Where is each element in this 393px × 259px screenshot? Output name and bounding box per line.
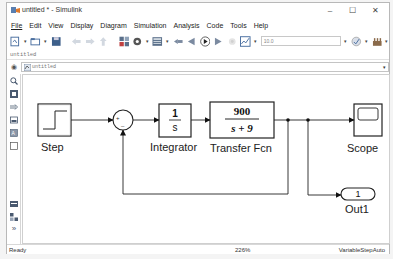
menu-code[interactable]: Code xyxy=(207,20,224,32)
scope-block[interactable] xyxy=(354,104,382,136)
status-text: Ready xyxy=(9,246,26,254)
menu-file[interactable]: File xyxy=(11,20,22,32)
step-block[interactable] xyxy=(38,104,71,136)
out1-label: Out1 xyxy=(345,203,369,215)
integrator-label: Integrator xyxy=(150,141,197,153)
open-icon[interactable] xyxy=(30,36,41,47)
window-title: untitled * - Simulink xyxy=(22,6,82,13)
model-explorer-icon[interactable] xyxy=(152,36,163,47)
path-dropdown-icon[interactable]: ▾ xyxy=(383,64,386,70)
config-dropdown-icon[interactable]: ▾ xyxy=(146,38,150,44)
svg-text:s + 9: s + 9 xyxy=(230,122,253,134)
explorer-bar-icon[interactable] xyxy=(10,200,18,208)
maximize-button[interactable]: ☐ xyxy=(341,5,363,17)
scope-label: Scope xyxy=(347,142,378,154)
svg-text:s: s xyxy=(173,122,178,133)
advisor-dropdown-icon[interactable]: ▾ xyxy=(365,38,369,44)
stop-time-dropdown-icon[interactable]: ▾ xyxy=(344,38,348,44)
status-bar: Ready 226% VariableStepAuto xyxy=(7,244,389,254)
step-label: Step xyxy=(41,141,64,153)
menu-view[interactable]: View xyxy=(48,20,63,32)
zoom-icon[interactable] xyxy=(10,77,18,85)
svg-text:1: 1 xyxy=(172,108,178,119)
menu-display[interactable]: Display xyxy=(70,20,93,32)
step-previous-icon[interactable] xyxy=(186,36,197,47)
simulink-app-icon xyxy=(11,6,20,15)
svg-text:+: + xyxy=(116,115,120,121)
zoom-level: 226% xyxy=(235,246,250,254)
menu-help[interactable]: Help xyxy=(254,20,268,32)
hide-browser-icon[interactable]: ◉ xyxy=(10,63,18,71)
image-icon[interactable] xyxy=(10,116,18,124)
out1-port[interactable]: 1 xyxy=(341,188,375,200)
simulink-window: untitled * - Simulink – ☐ ✕ File Edit Vi… xyxy=(6,2,390,254)
data-inspector-icon[interactable] xyxy=(240,36,251,47)
explorer-dropdown-icon[interactable]: ▾ xyxy=(166,38,170,44)
model-path: untitled xyxy=(32,64,56,71)
menu-diagram[interactable]: Diagram xyxy=(100,20,126,32)
canvas-palette: A » xyxy=(7,74,21,244)
menu-bar: File Edit View Display Diagram Simulatio… xyxy=(7,20,389,32)
close-button[interactable]: ✕ xyxy=(364,5,386,17)
minimize-button[interactable]: – xyxy=(319,5,341,17)
area-icon[interactable] xyxy=(10,142,18,150)
build-dropdown-icon[interactable]: ▾ xyxy=(385,38,389,44)
run-icon[interactable] xyxy=(200,36,211,47)
stop-icon[interactable] xyxy=(227,36,238,47)
up-icon[interactable] xyxy=(98,36,109,47)
solver-name[interactable]: VariableStepAuto xyxy=(339,246,385,254)
title-bar: untitled * - Simulink – ☐ ✕ xyxy=(7,3,389,19)
step-forward-icon[interactable] xyxy=(213,36,224,47)
build-icon[interactable] xyxy=(372,36,383,47)
arrow-icon[interactable] xyxy=(10,103,18,111)
library-browser-icon[interactable] xyxy=(119,36,130,47)
model-canvas[interactable]: + – 1 s 900 s + 9 xyxy=(22,74,390,244)
model-tab[interactable]: untitled xyxy=(7,50,389,60)
inspector-dropdown-icon[interactable]: ▾ xyxy=(254,38,258,44)
model-icon xyxy=(24,64,31,71)
step-back-icon[interactable] xyxy=(173,36,184,47)
integrator-block[interactable]: 1 s xyxy=(159,104,191,137)
model-browser-icon[interactable] xyxy=(10,213,18,221)
annotation-icon[interactable]: A xyxy=(10,129,18,137)
forward-icon[interactable] xyxy=(85,36,96,47)
menu-simulation[interactable]: Simulation xyxy=(134,20,167,32)
back-icon[interactable] xyxy=(71,36,82,47)
svg-text:1: 1 xyxy=(355,189,360,199)
menu-edit[interactable]: Edit xyxy=(29,20,41,32)
open-dropdown-icon[interactable]: ▾ xyxy=(44,38,48,44)
svg-text:900: 900 xyxy=(234,105,251,117)
menu-tools[interactable]: Tools xyxy=(230,20,246,32)
expand-icon[interactable]: » xyxy=(10,225,18,233)
model-path-field[interactable]: untitled ▾ xyxy=(21,62,389,72)
fit-view-icon[interactable] xyxy=(10,90,18,98)
transfer-fcn-block[interactable]: 900 s + 9 xyxy=(210,102,274,138)
block-diagram: + – 1 s 900 s + 9 xyxy=(23,75,390,244)
address-bar: ◉ untitled ▾ xyxy=(7,61,389,73)
new-model-icon[interactable] xyxy=(10,36,21,47)
model-advisor-icon[interactable] xyxy=(351,36,362,47)
toolbar: ▾ ▾ ▾ xyxy=(7,33,389,49)
sum-block[interactable]: + – xyxy=(113,110,133,130)
new-dropdown-icon[interactable]: ▾ xyxy=(24,38,28,44)
menu-analysis[interactable]: Analysis xyxy=(173,20,199,32)
save-icon[interactable] xyxy=(51,36,62,47)
model-config-icon[interactable] xyxy=(132,36,143,47)
stop-time-input[interactable]: 10.0 xyxy=(261,36,342,46)
model-tab-label: untitled xyxy=(10,51,36,58)
transfer-fcn-label: Transfer Fcn xyxy=(210,142,272,154)
